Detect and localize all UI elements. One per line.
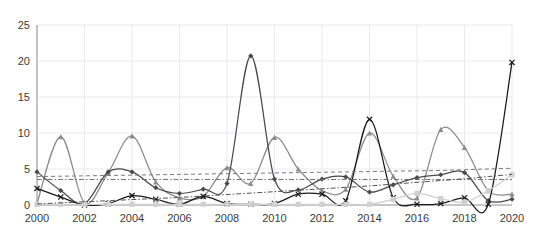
- x-tick-2004: 2004: [120, 212, 144, 224]
- y-tick-20: 20: [18, 55, 30, 67]
- y-tick-15: 15: [18, 91, 30, 103]
- y-tick-25: 25: [18, 19, 30, 31]
- x-tick-2020: 2020: [500, 212, 524, 224]
- line-chart: 0510152025 20002002200420062008201020122…: [0, 0, 537, 237]
- y-axis-tick-labels: 0510152025: [18, 19, 30, 211]
- x-tick-2014: 2014: [357, 212, 381, 224]
- x-tick-2000: 2000: [25, 212, 49, 224]
- y-tick-5: 5: [24, 163, 30, 175]
- chart-container: 0510152025 20002002200420062008201020122…: [0, 0, 537, 237]
- y-tick-0: 0: [24, 199, 30, 211]
- x-tick-2016: 2016: [405, 212, 429, 224]
- x-tick-2012: 2012: [310, 212, 334, 224]
- x-tick-2010: 2010: [262, 212, 286, 224]
- x-tick-2002: 2002: [72, 212, 96, 224]
- y-tick-10: 10: [18, 127, 30, 139]
- x-axis-tick-labels: 2000200220042006200820102012201420162018…: [25, 212, 524, 224]
- x-tick-2018: 2018: [452, 212, 476, 224]
- x-tick-2006: 2006: [167, 212, 191, 224]
- x-tick-2008: 2008: [215, 212, 239, 224]
